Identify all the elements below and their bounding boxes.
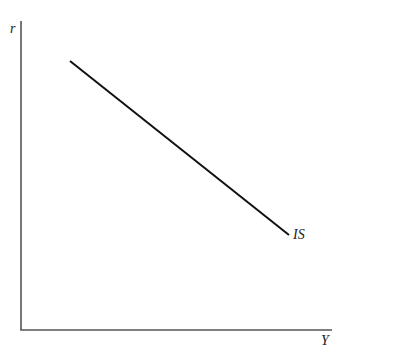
x-axis-label: Y [321, 334, 329, 348]
is-curve-line [70, 61, 289, 235]
is-curve-diagram: r Y IS [0, 0, 393, 350]
is-curve-label: IS [293, 228, 305, 242]
diagram-plot-area [0, 0, 393, 350]
y-axis-label: r [10, 22, 15, 36]
